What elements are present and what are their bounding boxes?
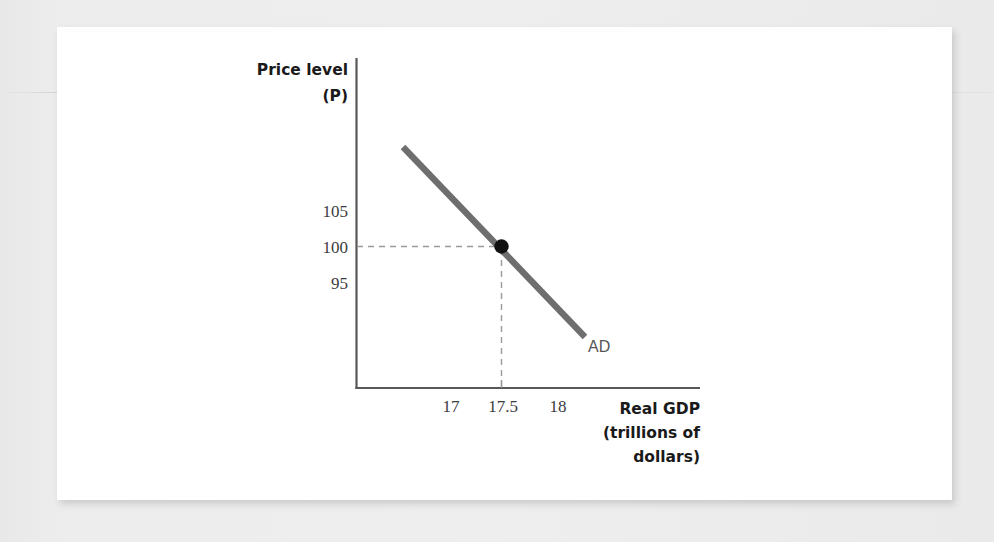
x-tick-label-17: 17 bbox=[443, 397, 461, 416]
y-tick-label-95: 95 bbox=[331, 274, 348, 293]
ad-curve-group[interactable] bbox=[403, 147, 585, 337]
y-tick-label-105: 105 bbox=[323, 202, 349, 221]
y-tick-labels: 105 100 95 bbox=[323, 202, 349, 293]
y-tick-label-100: 100 bbox=[323, 238, 349, 257]
ad-curve-line[interactable] bbox=[403, 147, 585, 337]
y-axis-title: Price level (P) bbox=[257, 61, 348, 105]
equilibrium-point-marker[interactable] bbox=[494, 239, 508, 253]
x-axis-title-line2: (trillions of bbox=[603, 424, 700, 442]
ad-curve-label: AD bbox=[588, 338, 610, 355]
x-tick-labels: 17 17.5 18 bbox=[443, 397, 567, 416]
x-tick-label-18: 18 bbox=[550, 397, 567, 416]
guide-lines bbox=[357, 247, 502, 389]
aggregate-demand-chart: 105 100 95 17 17.5 18 Price level (P) Re… bbox=[57, 27, 952, 500]
x-axis-title-line3: dollars) bbox=[633, 448, 700, 466]
figure-card: 105 100 95 17 17.5 18 Price level (P) Re… bbox=[57, 27, 952, 500]
x-axis-title-line1: Real GDP bbox=[619, 400, 700, 418]
y-axis-title-line2: (P) bbox=[322, 87, 348, 105]
x-axis-title: Real GDP (trillions of dollars) bbox=[603, 400, 700, 466]
y-axis-title-line1: Price level bbox=[257, 61, 348, 79]
x-tick-label-17.5: 17.5 bbox=[488, 397, 518, 416]
axes bbox=[355, 58, 700, 389]
chart-svg: 105 100 95 17 17.5 18 Price level (P) Re… bbox=[57, 27, 952, 500]
